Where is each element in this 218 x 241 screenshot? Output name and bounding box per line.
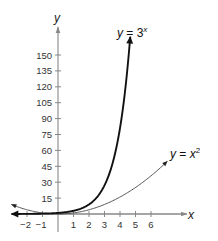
x-tick-label: 6 [148,219,153,230]
curves [12,37,168,214]
x-squared-curve-label: y = x2 [169,146,201,161]
exp-curve-left [12,213,59,214]
x-tick-label: 2 [86,219,91,230]
y-tick-label: 30 [41,177,52,188]
x-tick-label: 1 [71,219,76,230]
y-tick-label: 60 [41,145,52,156]
y-axis-label: y [53,11,61,25]
x-tick-label: 4 [117,219,122,230]
y-tick-label: 150 [36,50,52,61]
x-tick-label: −2 [20,219,31,230]
x-axis-label: x [187,208,195,222]
x-squared-curve-right [58,161,167,214]
exp-curve-label: y = 3x [116,25,148,40]
ticks: −2−1123456153045607590105120135150 [20,50,154,231]
y-tick-label: 105 [36,97,52,108]
y-tick-label: 15 [41,193,52,204]
y-tick-label: 90 [41,113,52,124]
x-tick-label: −1 [36,219,47,230]
chart: −2−1123456153045607590105120135150 xyy =… [0,0,218,241]
labels: xyy = 3xy = x2 [53,11,201,222]
y-tick-label: 75 [41,129,52,140]
y-tick-label: 120 [36,81,52,92]
x-tick-label: 5 [133,219,138,230]
x-tick-label: 3 [102,219,107,230]
exp-curve-right [58,37,130,213]
y-tick-label: 45 [41,161,52,172]
y-tick-label: 135 [36,65,52,76]
